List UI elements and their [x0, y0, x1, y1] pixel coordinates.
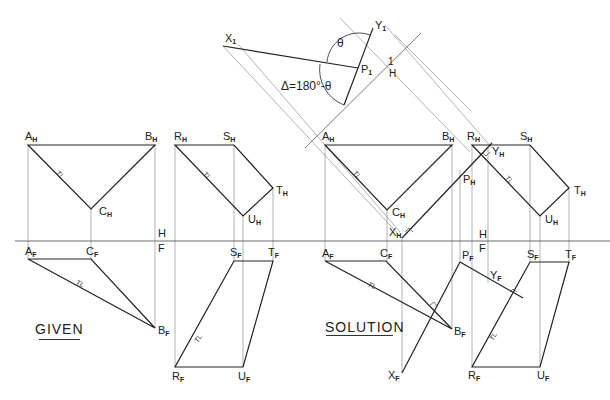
label-ph: PH	[463, 174, 475, 186]
label-rf: RF	[172, 371, 184, 383]
label-tf: TF	[268, 247, 279, 259]
label-ah-sol: AH	[322, 131, 334, 143]
label-bf: BF	[158, 325, 170, 337]
label-xh: XH	[389, 227, 401, 239]
label-pf: PF	[462, 250, 474, 262]
label-rh: RH	[174, 131, 187, 143]
aux-view	[223, 28, 373, 105]
fold-label-1: 1	[388, 56, 394, 67]
given-title: GIVEN	[35, 321, 84, 337]
solution-front-view	[325, 261, 569, 373]
given-top-view	[28, 145, 273, 216]
label-yh: YH	[492, 146, 504, 158]
label-yf: YF	[490, 270, 502, 282]
label-bf-sol: BF	[454, 326, 466, 338]
label-uh-sol: UH	[545, 214, 558, 226]
label-tf-sol: TF	[565, 249, 576, 261]
label-p1: P1	[361, 64, 372, 76]
label-rf-sol: RF	[468, 370, 480, 382]
solution-top-view	[325, 143, 569, 238]
fold-label-f: F	[158, 242, 165, 254]
label-sh-sol: SH	[520, 131, 532, 143]
angle-delta-label: Δ=180°-θ	[281, 80, 332, 92]
label-x1: X1	[225, 33, 236, 45]
label-uh: UH	[248, 214, 261, 226]
label-th: TH	[276, 185, 288, 197]
label-uf-sol: UF	[537, 370, 549, 382]
label-cf: CF	[86, 246, 98, 258]
label-af-sol: AF	[322, 248, 334, 260]
label-bh: BH	[145, 131, 157, 143]
label-ch-sol: CH	[392, 207, 405, 219]
fold-label-h: H	[158, 227, 166, 239]
solution-title: SOLUTION	[325, 319, 405, 335]
fold-label-h-aux: H	[389, 68, 396, 79]
label-ch: CH	[99, 206, 112, 218]
label-th-sol: TH	[574, 185, 586, 197]
label-sf: SF	[230, 247, 242, 259]
label-uf: UF	[238, 371, 250, 383]
label-xf: XF	[388, 370, 400, 382]
label-sh: SH	[223, 131, 235, 143]
fold-label-h-sol: H	[479, 228, 487, 240]
label-af: AF	[25, 246, 37, 258]
label-bh-sol: BH	[442, 131, 454, 143]
given-front-view	[28, 259, 273, 367]
label-cf-sol: CF	[380, 248, 392, 260]
drawing-canvas	[0, 0, 610, 400]
given-underline	[39, 339, 80, 340]
label-sf-sol: SF	[527, 249, 539, 261]
angle-theta-label: θ	[337, 37, 344, 49]
label-y1: Y1	[375, 20, 386, 32]
label-rh-sol: RH	[467, 131, 480, 143]
label-ah: AH	[25, 131, 37, 143]
solution-underline	[326, 335, 393, 336]
fold-label-f-sol: F	[479, 242, 486, 254]
